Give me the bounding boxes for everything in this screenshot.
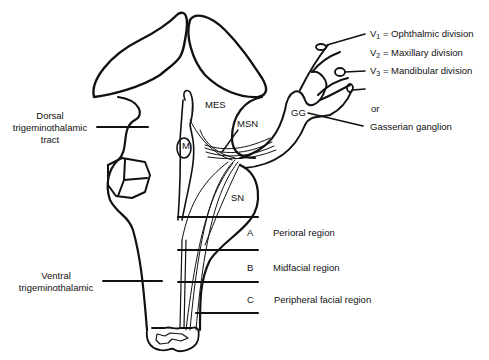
label-gg: GG xyxy=(291,107,306,119)
division-v2: V2 = Maxillary division xyxy=(370,47,463,62)
division-v1: V1 = Ophthalmic division xyxy=(370,28,473,43)
or-text: or xyxy=(371,103,379,115)
region-b-letter: B xyxy=(247,262,253,274)
v1-pointer xyxy=(327,34,365,45)
label-msn: MSN xyxy=(237,118,258,130)
gg-pointer xyxy=(308,113,363,126)
region-c-label: Peripheral facial region xyxy=(274,294,371,306)
label-sn: SN xyxy=(231,192,244,204)
cord-tracts xyxy=(180,240,186,328)
gray-matter xyxy=(156,333,188,344)
descending-fibers xyxy=(182,160,240,330)
label-m: M xyxy=(182,140,190,152)
dorsal-tract-label: Dorsal trigeminothalamic tract xyxy=(6,110,94,146)
region-a-label: Perioral region xyxy=(273,227,335,239)
left-thalamus-outline xyxy=(93,13,187,97)
brainstem-left-outline xyxy=(108,97,147,330)
v1-cut-end xyxy=(316,44,326,50)
ventral-tract-label: Ventral trigeminothalamic xyxy=(12,270,100,294)
v2-pointer xyxy=(345,71,365,72)
gasserian-ganglion-label: Gasserian ganglion xyxy=(370,121,452,133)
region-a-letter: A xyxy=(247,227,253,239)
region-b-label: Midfacial region xyxy=(273,262,340,274)
v2-cut-end xyxy=(335,68,345,76)
division-v3: V3 = Mandibular division xyxy=(370,65,472,80)
right-thalamus-outline xyxy=(188,16,266,97)
mes-column xyxy=(178,90,194,220)
label-mes: MES xyxy=(205,99,226,111)
region-c-letter: C xyxy=(247,294,254,306)
trigeminal-nerve-lower xyxy=(245,90,352,168)
v3-pointer xyxy=(353,89,365,90)
